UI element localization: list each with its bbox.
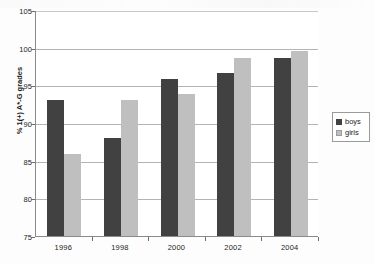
legend-swatch-girls-icon bbox=[336, 130, 342, 136]
legend-label-girls: girls bbox=[345, 129, 359, 137]
bar-boys-1996 bbox=[47, 100, 64, 236]
legend-label-boys: boys bbox=[345, 118, 361, 126]
bar-chart-figure: % 1(+) A*-G grades 7580859095100105 1996… bbox=[0, 0, 374, 264]
y-tick-label-105: 105 bbox=[4, 7, 32, 16]
y-tick-mark-75 bbox=[31, 237, 35, 238]
x-tick-label-1996: 1996 bbox=[33, 243, 93, 252]
y-tick-label-85: 85 bbox=[4, 157, 32, 166]
legend-item-girls: girls bbox=[336, 127, 366, 138]
x-tick-label-2000: 2000 bbox=[147, 243, 207, 252]
bar-boys-2002 bbox=[217, 73, 234, 237]
legend-item-boys: boys bbox=[336, 116, 366, 127]
y-axis-title: % 1(+) A*-G grades bbox=[15, 41, 24, 161]
x-tick-label-2002: 2002 bbox=[203, 243, 263, 252]
bar-girls-2004 bbox=[291, 51, 308, 236]
gridline-100 bbox=[36, 49, 318, 50]
plot-area bbox=[35, 11, 318, 237]
legend: boys girls bbox=[332, 112, 370, 142]
y-tick-label-90: 90 bbox=[4, 120, 32, 129]
bar-girls-1998 bbox=[121, 100, 138, 236]
x-tick-label-2004: 2004 bbox=[260, 243, 320, 252]
plot-top-border bbox=[36, 11, 318, 12]
legend-swatch-boys-icon bbox=[336, 119, 342, 125]
bar-girls-1996 bbox=[64, 154, 81, 236]
bar-girls-2002 bbox=[234, 58, 251, 237]
x-tick-mark-2002 bbox=[261, 237, 262, 241]
x-tick-mark-1998 bbox=[148, 237, 149, 241]
bar-girls-2000 bbox=[178, 94, 195, 236]
scan-noise-artifact bbox=[0, 0, 374, 8]
x-tick-mark-2004 bbox=[318, 237, 319, 241]
y-tick-label-100: 100 bbox=[4, 44, 32, 53]
x-tick-mark-2000 bbox=[205, 237, 206, 241]
bar-boys-2004 bbox=[274, 58, 291, 236]
x-tick-mark-1996 bbox=[92, 237, 93, 241]
x-tick-label-1998: 1998 bbox=[90, 243, 150, 252]
bar-boys-2000 bbox=[161, 79, 178, 236]
y-tick-label-75: 75 bbox=[4, 233, 32, 242]
bar-boys-1998 bbox=[104, 138, 121, 236]
y-tick-label-80: 80 bbox=[4, 195, 32, 204]
y-tick-label-95: 95 bbox=[4, 82, 32, 91]
